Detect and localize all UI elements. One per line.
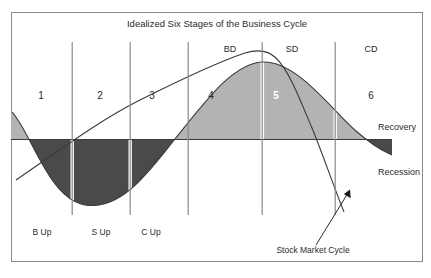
chart-title: Idealized Six Stages of the Business Cyc… [127, 18, 307, 29]
bottom-label-c-up: C Up [141, 227, 161, 237]
top-label-sd: SD [286, 44, 299, 54]
figure-canvas: Idealized Six Stages of the Business Cyc… [0, 0, 431, 278]
stage-number-1: 1 [38, 90, 44, 101]
business-cycle-chart: Idealized Six Stages of the Business Cyc… [0, 0, 431, 278]
side-label-recession: Recession [378, 167, 420, 177]
bottom-label-b-up: B Up [33, 227, 52, 237]
top-label-cd: CD [365, 44, 378, 54]
callout-label: Stock Market Cycle [276, 245, 349, 255]
stage-number-6: 6 [368, 90, 374, 101]
stage-number-2: 2 [97, 90, 103, 101]
stage-number-3: 3 [149, 90, 155, 101]
top-label-bd: BD [224, 44, 237, 54]
side-label-recovery: Recovery [378, 122, 417, 132]
bottom-label-s-up: S Up [92, 227, 111, 237]
stage-number-4: 4 [208, 90, 214, 101]
stage-number-5: 5 [273, 90, 279, 101]
